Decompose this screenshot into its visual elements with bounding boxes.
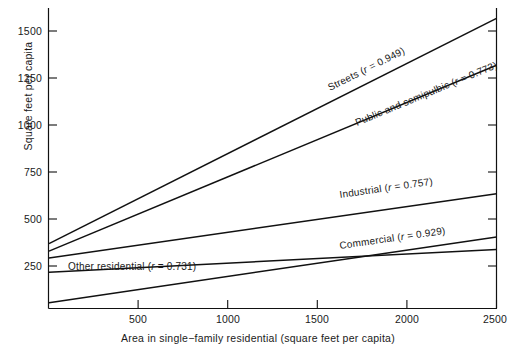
series-annotation-industrial: Industrial (r = 0.757) — [339, 176, 434, 200]
y-tick-label-250: 250 — [0, 260, 42, 272]
y-tick-label-500: 500 — [0, 213, 42, 225]
x-axis-title: Area in single−family residential (squar… — [0, 332, 516, 344]
x-tick-marks — [138, 300, 496, 309]
series-annotation-other-residential: Other residential (r = 0.731) — [68, 261, 196, 272]
y-tick-label-1500: 1500 — [0, 25, 42, 37]
plot-area: Streets (r = 0.949) Public and semipulbi… — [0, 0, 516, 352]
y-tick-label-750: 750 — [0, 166, 42, 178]
y-tick-label-1250: 1250 — [0, 72, 42, 84]
x-tick-label-1500: 1500 — [305, 313, 329, 325]
y-axis-title: Square feet per capita — [22, 21, 34, 171]
x-tick-label-2500: 2500 — [483, 313, 507, 325]
x-tick-label-1000: 1000 — [216, 313, 240, 325]
y-tick-label-1000: 1000 — [0, 119, 42, 131]
chart-figure: Streets (r = 0.949) Public and semipulbi… — [0, 0, 516, 352]
series-line-industrial — [49, 194, 497, 258]
x-tick-label-500: 500 — [129, 313, 147, 325]
series-line-streets — [49, 18, 497, 243]
y-tick-marks — [49, 31, 58, 266]
x-tick-label-2000: 2000 — [395, 313, 419, 325]
